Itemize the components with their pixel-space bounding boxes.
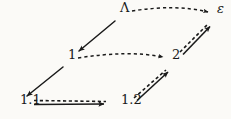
node-2: 2	[172, 48, 180, 61]
edge-two-to-epsilon	[180, 24, 210, 55]
node-lambda: Λ	[120, 1, 129, 14]
node-1-2: 1.2	[121, 93, 142, 106]
edge-one-to-two	[78, 54, 163, 58]
edge-lambda-to-one	[79, 21, 115, 51]
node-1: 1	[68, 48, 76, 61]
node-epsilon: ε	[217, 2, 224, 15]
edge-lambda-to-epsilon	[132, 8, 208, 12]
diagram-canvas: Λ ε 1 2 1.1 1.2	[0, 0, 231, 119]
node-1-1: 1.1	[20, 93, 41, 106]
edge-onepone-to-oneptwo	[34, 101, 106, 105]
